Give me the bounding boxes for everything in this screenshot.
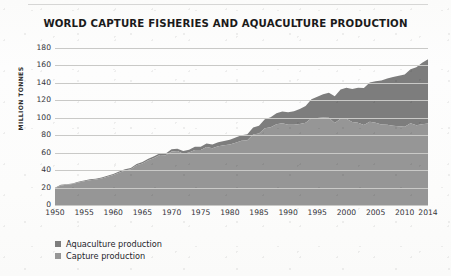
x-axis-tick: 2014 (418, 208, 437, 217)
gridline (55, 83, 428, 84)
x-axis-tick: 1960 (104, 208, 123, 217)
gridline (55, 170, 428, 171)
y-axis-tick-labels: 180160140120100806040200 (21, 48, 51, 205)
y-axis-tick: 100 (25, 113, 51, 122)
x-axis-tick: 1955 (74, 208, 93, 217)
legend-label: Capture production (66, 251, 145, 261)
gridline (55, 205, 428, 206)
x-axis-tick: 1995 (308, 208, 327, 217)
x-axis-tick: 1965 (133, 208, 152, 217)
x-axis-tick: 2000 (337, 208, 356, 217)
chart-legend: Aquaculture productionCapture production (55, 238, 162, 262)
x-axis-tick: 1985 (249, 208, 268, 217)
area-capture-production (55, 118, 428, 205)
x-axis-tick: 1990 (278, 208, 297, 217)
gridline (55, 65, 428, 66)
gridline (55, 153, 428, 154)
y-axis-tick: 140 (25, 78, 51, 87)
legend-label: Aquaculture production (66, 239, 162, 249)
chart-title: WORLD CAPTURE FISHERIES AND AQUACULTURE … (0, 18, 451, 29)
x-axis-tick-labels: 1950195519601965197019751980198519901995… (55, 208, 428, 222)
legend-item: Capture production (55, 250, 162, 261)
stacked-area-chart (55, 48, 428, 205)
legend-item: Aquaculture production (55, 238, 162, 249)
x-axis-tick: 2010 (395, 208, 414, 217)
plot-area (55, 48, 428, 205)
gridline (55, 48, 428, 49)
y-axis-tick: 40 (25, 165, 51, 174)
x-axis-tick: 1950 (45, 208, 64, 217)
gridline (55, 135, 428, 136)
y-axis-tick: 180 (25, 43, 51, 52)
legend-swatch-icon (55, 241, 61, 247)
x-axis-tick: 1980 (220, 208, 239, 217)
gridline (55, 118, 428, 119)
legend-swatch-icon (55, 253, 61, 259)
y-axis-tick: 20 (25, 183, 51, 192)
y-axis-tick: 80 (25, 130, 51, 139)
x-axis-tick: 2005 (366, 208, 385, 217)
gridline (55, 188, 428, 189)
y-axis-tick: 120 (25, 95, 51, 104)
y-axis-tick: 60 (25, 148, 51, 157)
x-axis-tick: 1975 (191, 208, 210, 217)
header-divider (28, 4, 428, 5)
chart-page: WORLD CAPTURE FISHERIES AND AQUACULTURE … (0, 0, 451, 276)
gridline (55, 100, 428, 101)
y-axis-tick: 160 (25, 60, 51, 69)
x-axis-tick: 1970 (162, 208, 181, 217)
